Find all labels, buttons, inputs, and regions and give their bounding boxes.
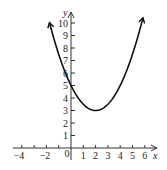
svg-text:5: 5 bbox=[130, 150, 135, 161]
svg-text:0: 0 bbox=[65, 148, 70, 159]
svg-text:4: 4 bbox=[63, 93, 68, 104]
svg-text:4: 4 bbox=[118, 150, 123, 161]
svg-text:5: 5 bbox=[63, 80, 68, 91]
y-tick-labels: 1 2 3 4 5 6 7 8 9 10 bbox=[58, 18, 68, 142]
svg-text:7: 7 bbox=[63, 55, 68, 66]
svg-text:−2: −2 bbox=[40, 150, 51, 161]
y-axis-label: y bbox=[62, 7, 68, 18]
svg-text:8: 8 bbox=[63, 43, 68, 54]
y-ticks bbox=[71, 23, 75, 136]
svg-text:2: 2 bbox=[93, 150, 98, 161]
svg-text:1: 1 bbox=[81, 150, 86, 161]
svg-text:3: 3 bbox=[63, 105, 68, 116]
svg-text:3: 3 bbox=[105, 150, 110, 161]
x-axis-label: x bbox=[152, 150, 158, 161]
svg-text:−4: −4 bbox=[14, 150, 25, 161]
parabola-graph: −4 −2 0 1 2 3 4 5 6 x 1 2 3 4 5 6 7 8 9 … bbox=[0, 0, 167, 170]
svg-text:6: 6 bbox=[142, 150, 147, 161]
x-tick-labels: −4 −2 0 1 2 3 4 5 6 bbox=[14, 148, 148, 161]
svg-text:1: 1 bbox=[63, 130, 68, 141]
svg-text:2: 2 bbox=[63, 118, 68, 129]
svg-text:10: 10 bbox=[58, 18, 68, 29]
svg-text:9: 9 bbox=[63, 30, 68, 41]
